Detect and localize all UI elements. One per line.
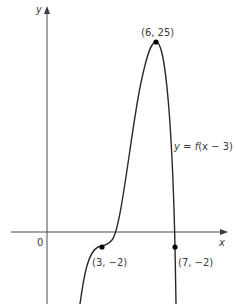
curve-label-suffix: (x − 3) −2 — [198, 141, 236, 152]
curve-label-prefix: y = — [173, 141, 195, 152]
peak-point — [153, 39, 158, 44]
graph-canvas: y x 0 (6, 25) (3, −2) (7, −2) y = f(x − … — [0, 0, 236, 304]
y-axis-label: y — [35, 4, 43, 15]
inflection-label: (3, −2) — [92, 257, 127, 268]
peak-label: (6, 25) — [141, 27, 174, 38]
right-point — [172, 244, 177, 249]
x-axis-label: x — [218, 237, 225, 248]
inflection-point — [99, 244, 104, 249]
origin-label: 0 — [37, 237, 43, 248]
y-axis-arrow-icon — [44, 6, 50, 14]
right-point-label: (7, −2) — [178, 257, 213, 268]
x-axis-arrow-icon — [220, 229, 228, 235]
curve-label: y = f(x − 3) −2 — [173, 141, 236, 152]
